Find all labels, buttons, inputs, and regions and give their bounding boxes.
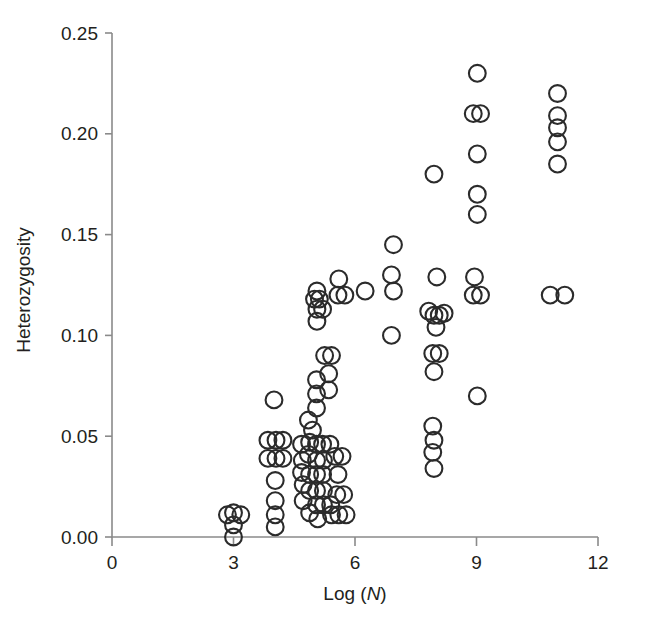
data-point-marker [549,156,566,173]
data-point-marker [426,363,443,380]
data-point-marker [330,466,347,483]
y-tick-label: 0.05 [61,426,98,447]
y-axis-tick-labels: 0.000.050.100.150.200.25 [61,23,98,548]
data-point-marker [469,387,486,404]
x-axis-tick-labels: 036912 [107,552,609,573]
data-point-marker [469,146,486,163]
x-tick-label: 3 [228,552,239,573]
data-point-marker [267,472,284,489]
axis-spine [112,33,598,537]
data-point-marker [266,392,283,409]
data-point-marker [428,269,445,286]
data-point-marker [383,267,400,284]
data-points [219,65,573,545]
data-point-marker [330,271,347,288]
data-point-marker [385,283,402,300]
data-point-marker [424,444,441,461]
y-tick-label: 0.20 [61,123,98,144]
x-tick-label: 0 [107,552,118,573]
data-point-marker [549,85,566,102]
data-point-marker [469,186,486,203]
y-axis-title: Heterozygosity [13,227,34,353]
x-axis-title-variable: N [367,583,381,604]
plot-canvas: 0.000.050.100.150.200.25 036912 Heterozy… [0,0,662,621]
data-point-marker [385,236,402,253]
x-tick-label: 12 [587,552,608,573]
x-axis-title: Log (N) [323,583,386,604]
x-tick-label: 6 [350,552,361,573]
y-tick-label: 0.10 [61,325,98,346]
data-point-marker [428,319,445,336]
x-tick-label: 9 [471,552,482,573]
scatter-plot-figure: 0.000.050.100.150.200.25 036912 Heterozy… [0,0,662,621]
data-point-marker [267,519,284,536]
data-point-marker [420,303,437,320]
data-point-marker [469,206,486,223]
data-point-marker [469,65,486,82]
data-point-marker [466,269,483,286]
y-tick-label: 0.00 [61,527,98,548]
axes [112,33,598,537]
data-point-marker [383,327,400,344]
data-point-marker [426,166,443,183]
y-tick-label: 0.25 [61,23,98,44]
data-point-marker [357,283,374,300]
y-tick-label: 0.15 [61,224,98,245]
data-point-marker [300,412,317,429]
data-point-marker [426,460,443,477]
